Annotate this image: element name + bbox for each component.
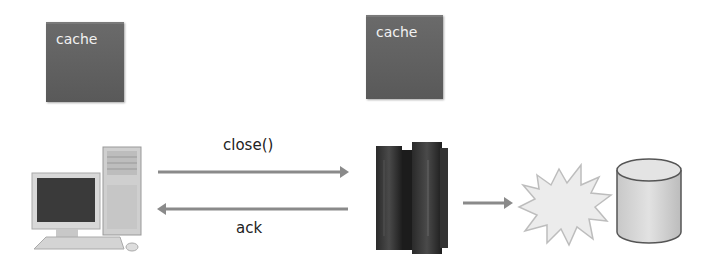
database-cylinder-icon [614, 156, 684, 246]
server-rack-icon [372, 140, 452, 260]
cache-box-server: cache [366, 15, 443, 99]
write-arrow [462, 196, 514, 210]
desktop-computer-icon [28, 145, 148, 255]
response-arrow [156, 201, 350, 217]
cache-label: cache [376, 24, 417, 40]
explosion-burst-icon [517, 163, 613, 247]
request-label: close() [223, 136, 273, 154]
cache-label: cache [56, 31, 97, 47]
response-label: ack [236, 219, 262, 237]
request-arrow [156, 164, 350, 180]
cache-box-client: cache [46, 22, 124, 102]
